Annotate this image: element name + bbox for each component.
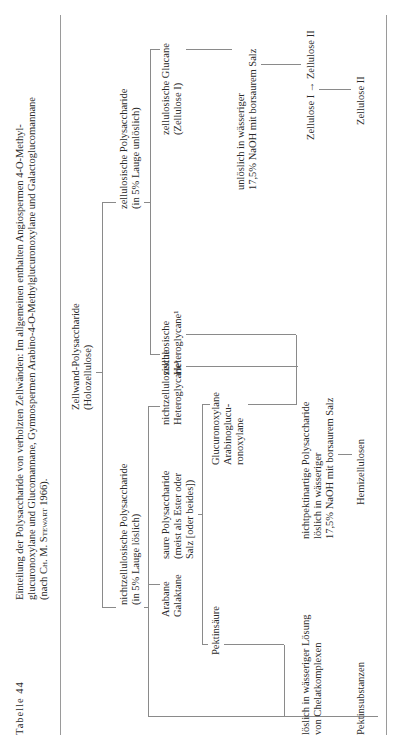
top-rule: [60, 15, 61, 735]
bottom-rule: [386, 15, 387, 735]
caption-line-2: glucuronoxylane und Glucomannane, Gymnos…: [26, 97, 38, 600]
node-glucuronoxylans-line3: ronoxylane: [234, 418, 246, 465]
node-acidic-line1: saure Polysaccharide: [160, 471, 172, 559]
connector: [102, 203, 103, 608]
node-cellulose-conversion: Zellulose I → Zellulose II: [305, 30, 317, 140]
node-noncellulosic-line1: nichtzellulosische Polysaccharide: [118, 464, 130, 605]
node-acidic-line3: Salz [oder beides]): [184, 480, 196, 559]
connector: [284, 716, 300, 717]
connector: [102, 202, 116, 203]
connector: [202, 405, 203, 645]
node-noncellulosic-line2: (in 5% Lauge löslich): [130, 514, 142, 605]
connector: [148, 407, 149, 717]
caption-line-1: Einteilung der Polysaccharide von verhol…: [14, 124, 26, 600]
node-root-line2: (Holozellulose): [82, 345, 94, 410]
connector: [148, 406, 160, 407]
node-insoluble-line2: 17,5% NaOH mit borsaurem Salz: [247, 49, 259, 190]
node-nonpectic-line2: löslich in wässeriger: [312, 453, 324, 539]
node-hemicelluloses: Hemizellulosen: [355, 439, 367, 505]
connector: [186, 49, 232, 50]
node-glucans-line1: zellulosische Glucane: [160, 43, 172, 135]
node-arabane-line1: Arabane: [160, 581, 172, 617]
connector: [224, 644, 284, 645]
node-soluble-chelate-line1: löslich in wässeriger Lösung: [300, 615, 312, 735]
connector: [261, 64, 301, 65]
connector: [326, 716, 352, 717]
connector: [202, 404, 210, 405]
node-insoluble-line1: unlöslich in wässeriger: [235, 93, 247, 190]
connector: [150, 354, 160, 355]
connector: [186, 334, 296, 335]
connector: [150, 50, 151, 355]
node-glucuronoxylans-line1: Glucuronoxylane: [210, 392, 222, 465]
document-page: Tabelle 44 Einteilung der Polysaccharide…: [0, 0, 393, 755]
connector: [186, 366, 296, 367]
connector: [284, 645, 285, 717]
node-c-hetero-line1: zellulosische: [160, 321, 172, 375]
node-soluble-chelate-line2: von Chelatkomplexen: [312, 643, 324, 735]
node-glucans-line2: (Zellulose I): [172, 83, 184, 135]
node-cellulose-ii: Zellulose II: [355, 76, 367, 125]
table-label: Tabelle 44: [14, 681, 26, 735]
connector: [248, 404, 296, 405]
node-cellulosic-line2: (in 5% Lauge unlöslich): [130, 107, 142, 209]
node-nonpectic-line3: 17,5% NaOH mit borsaurem Salz: [324, 398, 336, 539]
node-cellulosic-line1: zellulosische Polysaccharide: [118, 89, 130, 209]
connector: [319, 89, 351, 90]
node-pectic-substances: Pektinsubstanzen: [355, 662, 367, 735]
node-root-line1: Zellwand-Polysaccharide: [70, 303, 82, 410]
connector: [185, 716, 284, 717]
connector: [296, 335, 297, 405]
connector: [102, 607, 116, 608]
node-pectic-acid: Pektinsäure: [210, 606, 222, 655]
connector: [202, 644, 208, 645]
connector: [338, 454, 352, 455]
node-glucuronoxylans-line2: Arabinoglucu-: [222, 404, 234, 465]
node-c-hetero-line2: Heteroglycane¹: [172, 311, 184, 375]
node-acidic-line2: (meist als Ester oder: [172, 473, 184, 559]
connector: [296, 366, 298, 367]
node-arabane-line2: Galaktane: [172, 574, 184, 617]
connector: [148, 584, 160, 585]
node-nonpectic-line1: nichtpektinartige Polysaccharide: [300, 402, 312, 539]
connector: [150, 49, 160, 50]
caption-line-3: (nach Ch. M. Stewart 1966).: [38, 479, 50, 600]
